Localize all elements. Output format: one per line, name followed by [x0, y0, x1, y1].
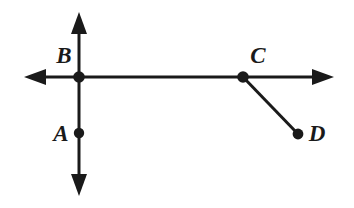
point-b-dot: [73, 71, 85, 83]
point-label-c: C: [250, 43, 266, 68]
point-c-dot: [237, 71, 249, 83]
right-arrow-icon: [312, 69, 334, 85]
geometry-diagram: B A C D: [0, 0, 354, 208]
diagram-svg: B A C D: [0, 0, 354, 208]
point-a-dot: [74, 128, 84, 138]
left-arrow-icon: [24, 69, 46, 85]
point-label-b: B: [55, 43, 71, 68]
point-d-dot: [293, 129, 304, 140]
point-label-a: A: [51, 121, 68, 146]
segment-cd: [243, 77, 298, 134]
down-arrow-icon: [71, 174, 87, 196]
up-arrow-icon: [71, 12, 87, 34]
point-label-d: D: [308, 121, 326, 146]
